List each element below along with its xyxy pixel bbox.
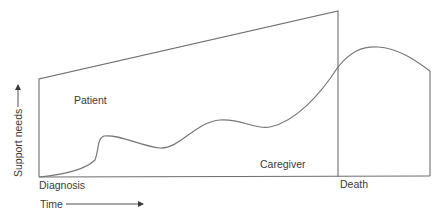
patient-label: Patient: [74, 94, 107, 106]
y-axis-label: Support needs: [12, 109, 24, 177]
x-axis-label: Time: [40, 198, 63, 210]
caregiver-label: Caregiver: [260, 158, 306, 170]
caregiver-needs-curve: [39, 47, 430, 177]
diagnosis-label: Diagnosis: [39, 179, 85, 191]
death-label: Death: [340, 178, 368, 190]
baseline: [39, 176, 430, 177]
support-needs-diagram: Patient Caregiver Diagnosis Death Time S…: [0, 0, 440, 216]
